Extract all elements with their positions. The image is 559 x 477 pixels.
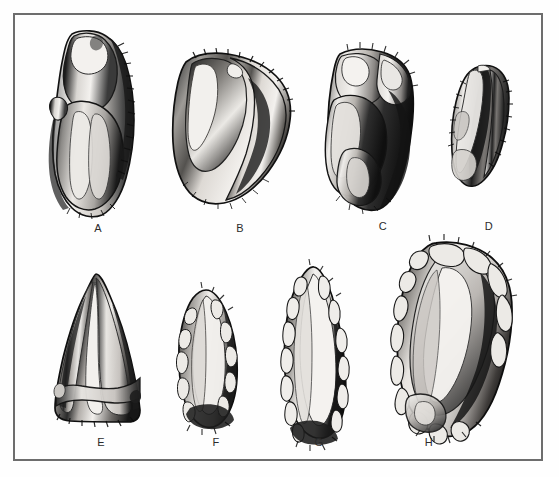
- artifact-label-c: C: [373, 220, 393, 232]
- artifact-label-h: H: [419, 436, 439, 448]
- plate-frame-border: [13, 13, 543, 461]
- artifact-label-d: D: [479, 220, 499, 232]
- artifact-label-f: F: [206, 436, 226, 448]
- artifact-label-e: E: [91, 436, 111, 448]
- artifact-label-a: A: [88, 222, 108, 234]
- artifact-label-b: B: [230, 222, 250, 234]
- artifact-label-g: G: [309, 436, 329, 448]
- illustration-plate: A B C D E F G H: [0, 0, 559, 477]
